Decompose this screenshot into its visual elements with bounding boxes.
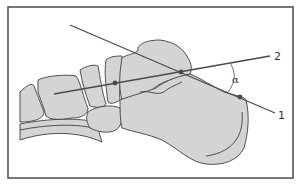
foot-angle-diagram: α 2 1 — [0, 0, 303, 187]
angle-label: α — [232, 74, 239, 85]
landmark-point-navicular — [113, 81, 118, 86]
landmark-point-calcaneus — [238, 95, 243, 100]
line-2-label: 2 — [274, 50, 281, 63]
landmark-point-talus — [179, 70, 184, 75]
cuboid — [87, 106, 122, 132]
line-1-label: 1 — [278, 109, 285, 122]
